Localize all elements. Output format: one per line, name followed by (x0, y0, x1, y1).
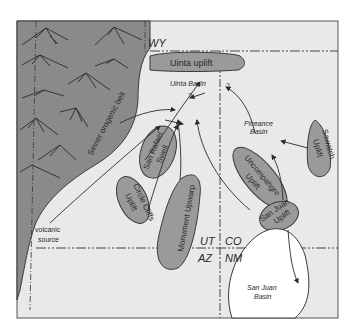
question-mark: ? (188, 92, 192, 99)
uinta-basin-label: Uinta Basin (170, 80, 206, 87)
piceance-basin-label: Piceance (244, 120, 273, 127)
state-label-co: CO (225, 235, 242, 247)
geologic-map: WY Uinta uplift Uinta Basin ? ? Piceance… (0, 0, 354, 331)
volcanic-source-label: source (38, 236, 59, 243)
volcanic-source-label: volcanic (35, 226, 61, 233)
state-label-ut: UT (200, 235, 216, 247)
state-label-nm: NM (225, 252, 243, 264)
wy-label: WY (148, 37, 166, 49)
uinta-uplift-label: Uinta uplift (170, 58, 213, 68)
piceance-basin-label: Basin (250, 128, 268, 135)
state-label-az: AZ (197, 252, 213, 264)
san-juan-basin-label: San Juan (247, 284, 277, 291)
san-juan-basin-label: Basin (254, 293, 272, 300)
question-mark: ? (226, 82, 230, 89)
